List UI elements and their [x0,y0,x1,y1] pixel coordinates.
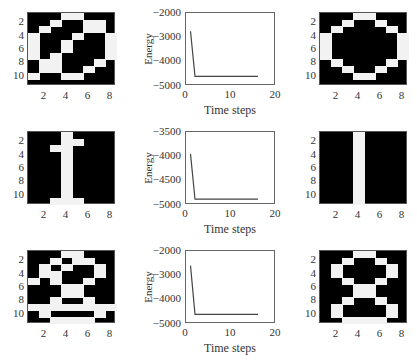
x-tick-label: 10 [220,327,240,338]
x-tick-label: 2 [34,209,54,220]
x-tick-label: 8 [100,209,120,220]
x-tick-label: 2 [34,90,54,101]
pixel-on [72,198,84,205]
energy-line [186,132,276,205]
pixel-on [72,139,84,146]
x-tick-label: 2 [34,328,54,339]
pixel-on [342,20,354,27]
pixel-on [364,317,376,324]
y-tick-label: −4000 [151,293,181,304]
x-tick-label: 6 [370,209,390,220]
x-tick-label: 6 [78,90,98,101]
pixel-on [386,271,398,278]
pixel-on [105,53,117,60]
pixel-on [342,317,354,324]
pixel-on [94,311,106,318]
x-tick-label: 20 [265,327,285,338]
pixel-on [94,26,106,33]
y-tick-label: 2 [0,135,24,146]
pixel-on [61,291,73,298]
pixel-on [353,291,365,298]
x-tick-label: 2 [326,328,346,339]
y-tick-label: 2 [0,254,24,265]
x-tick-label: 20 [265,89,285,100]
y-tick-label: 8 [0,175,24,186]
y-tick-label: −2000 [151,245,181,256]
pixel-on [364,73,376,80]
y-axis-label: Energy [142,24,154,74]
y-tick-label: 10 [0,189,24,200]
pixel-on [61,251,73,258]
x-tick-label: 8 [392,209,412,220]
y-tick-label: 8 [286,294,316,305]
pixel-on [50,304,62,311]
pixel-on [50,278,62,285]
pixel-grid [319,250,407,323]
pixel-on [375,66,387,73]
y-tick-label: −3000 [151,31,181,42]
y-axis-label: Energy [142,143,154,193]
y-tick-label: 10 [0,308,24,319]
y-tick-label: 6 [0,281,24,292]
x-axis-label: Time steps [190,103,270,118]
pixel-on [28,278,40,285]
y-tick-label: 8 [0,56,24,67]
pixel-on [39,26,51,33]
energy-plot-area [185,131,275,204]
y-tick-label: 6 [286,43,316,54]
pixel-on [375,278,387,285]
x-tick-label: 4 [348,90,368,101]
x-tick-label: 8 [100,90,120,101]
pixel-on [94,59,106,66]
pixel-on [94,271,106,278]
pixel-on [61,73,73,80]
pixel-on [72,304,84,311]
y-tick-label: 4 [286,30,316,41]
y-tick-label: −3500 [151,126,181,137]
y-tick-label: −4000 [151,55,181,66]
x-tick-label: 8 [392,90,412,101]
pixel-on [50,145,62,152]
x-tick-label: 0 [175,208,195,219]
y-tick-label: 2 [0,16,24,27]
pixel-on [105,304,117,311]
pixel-on [364,291,376,298]
pixel-on [61,198,73,205]
pixel-on [50,66,62,73]
pixel-on [353,251,365,258]
x-tick-label: 2 [326,90,346,101]
pixel-on [375,258,387,265]
pixel-grid [319,12,407,85]
y-tick-label: 4 [286,268,316,279]
y-tick-label: 8 [286,56,316,67]
y-tick-label: 2 [286,254,316,265]
pixel-on [386,26,398,33]
energy-line [186,13,276,86]
x-tick-label: 4 [348,209,368,220]
y-tick-label: 10 [286,70,316,81]
pixel-on [72,258,84,265]
x-axis-label: Time steps [190,222,270,237]
y-tick-label: −3000 [151,269,181,280]
pixel-on [342,278,354,285]
y-tick-label: −4500 [151,174,181,185]
pixel-on [50,198,62,205]
x-tick-label: 4 [56,209,76,220]
y-axis-label: Energy [142,262,154,312]
y-tick-label: 10 [0,70,24,81]
pixel-on [61,46,73,53]
pixel-on [83,258,95,265]
pixel-on [342,66,354,73]
pixel-on [28,73,40,80]
pixel-on [342,297,354,304]
x-tick-label: 8 [392,328,412,339]
y-tick-label: 6 [286,281,316,292]
y-tick-label: −4000 [151,150,181,161]
pixel-on [342,258,354,265]
pixel-on [331,59,343,66]
pixel-on [61,13,73,20]
x-tick-label: 6 [370,90,390,101]
pixel-on [50,317,62,324]
energy-plot-area [185,250,275,323]
x-tick-label: 2 [326,209,346,220]
